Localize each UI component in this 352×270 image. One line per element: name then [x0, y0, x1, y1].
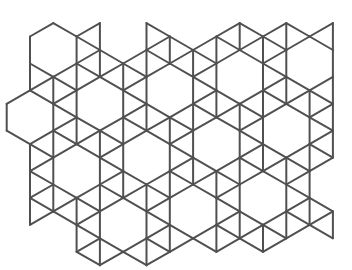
- tiling-edge: [30, 131, 53, 144]
- tiling-edge: [240, 90, 263, 104]
- tiling-edge: [30, 23, 53, 36]
- tiling-edge: [147, 198, 170, 212]
- tiling-edge: [193, 64, 216, 77]
- tiling-edge: [100, 158, 123, 172]
- tiling-edge: [147, 185, 170, 198]
- tiling-edge: [193, 50, 216, 64]
- tiling-edge: [147, 50, 170, 64]
- tiling-edge: [263, 171, 286, 184]
- tiling-edge: [53, 144, 76, 158]
- tiling-svg: [0, 0, 352, 270]
- tiling-edge: [193, 90, 216, 104]
- tiling-edge: [170, 117, 193, 130]
- tiling-edge: [263, 144, 286, 158]
- tiling-edge: [170, 238, 193, 252]
- tiling-edge: [123, 104, 146, 118]
- tiling-edge: [170, 104, 193, 118]
- tiling-edge: [216, 117, 239, 130]
- tiling-edge: [123, 198, 146, 212]
- tiling-edge: [310, 198, 333, 212]
- tiling-edge: [240, 117, 263, 130]
- tiling-edge: [286, 144, 309, 158]
- tiling-edge: [263, 23, 286, 36]
- tiling-edge: [77, 225, 100, 239]
- tiling-edge: [310, 23, 333, 36]
- tiling-edge: [100, 238, 123, 252]
- tiling-edge: [100, 252, 123, 265]
- tiling-edge: [30, 64, 53, 77]
- tiling-edge: [123, 90, 146, 104]
- tiling-edge: [193, 185, 216, 198]
- tiling-edge: [147, 211, 170, 224]
- tiling-edge: [53, 23, 76, 36]
- tiling-edge: [240, 171, 263, 184]
- tiling-edge: [170, 37, 193, 51]
- tiling-edge: [77, 23, 100, 36]
- tiling-edge: [123, 171, 146, 184]
- tiling-edge: [240, 37, 263, 51]
- tiling-edge: [216, 198, 239, 212]
- tiling-edge: [286, 104, 309, 118]
- tiling-edge: [30, 144, 53, 158]
- tiling-edge: [240, 144, 263, 158]
- tiling-edge: [147, 225, 170, 239]
- tiling-edge: [240, 225, 263, 239]
- tiling-edge: [100, 64, 123, 77]
- tiling-edge: [30, 198, 53, 212]
- tiling-edge: [53, 64, 76, 77]
- tiling-edge: [193, 77, 216, 90]
- tiling-edge: [77, 77, 100, 90]
- tiling-edge: [170, 171, 193, 184]
- tiling-edge: [216, 104, 239, 118]
- tiling-edge: [286, 77, 309, 90]
- tiling-edge: [216, 37, 239, 51]
- tiling-edge: [286, 198, 309, 212]
- tiling-edge: [123, 117, 146, 130]
- tiling-edge: [263, 158, 286, 172]
- tiling-edge: [53, 104, 76, 118]
- tiling-edge: [77, 64, 100, 77]
- tiling-edge: [100, 131, 123, 144]
- tiling-edge: [30, 158, 53, 172]
- tiling-edge: [216, 185, 239, 198]
- tiling-edge: [310, 225, 333, 239]
- tiling-edge: [30, 90, 53, 104]
- tiling-edge: [30, 77, 53, 90]
- tiling-edge: [216, 158, 239, 172]
- tiling-edge: [53, 211, 76, 224]
- tiling-edge: [147, 64, 170, 77]
- tiling-edge: [123, 252, 146, 265]
- tiling-edge: [170, 131, 193, 144]
- tiling-edge: [193, 225, 216, 239]
- tiling-edge: [310, 211, 333, 224]
- tiling-edge: [263, 64, 286, 77]
- tiling-edge: [263, 225, 286, 239]
- tiling-edge: [147, 37, 170, 51]
- tiling-edge: [53, 185, 76, 198]
- tiling-edge: [123, 238, 146, 252]
- tiling-edge: [216, 23, 239, 36]
- tiling-edge: [147, 238, 170, 252]
- tiling-edge: [216, 238, 239, 252]
- tiling-edge: [100, 50, 123, 64]
- tiling-edge: [286, 23, 309, 36]
- tiling-figure: [0, 0, 352, 270]
- tiling-edge: [286, 185, 309, 198]
- tiling-edge: [193, 104, 216, 118]
- tiling-edge: [170, 185, 193, 198]
- tiling-edge: [216, 211, 239, 224]
- tiling-edge: [263, 104, 286, 118]
- tiling-edge: [77, 198, 100, 212]
- tiling-edge: [310, 37, 333, 51]
- tiling-edge: [147, 171, 170, 184]
- tiling-edge: [193, 238, 216, 252]
- tiling-edge: [147, 104, 170, 118]
- tiling-edge: [263, 238, 286, 252]
- tiling-edge: [263, 50, 286, 64]
- tiling-edge: [193, 171, 216, 184]
- tiling-edge: [240, 131, 263, 144]
- tiling-edge: [170, 225, 193, 239]
- tiling-edge: [193, 158, 216, 172]
- tiling-edge: [77, 211, 100, 224]
- tiling-edge: [170, 64, 193, 77]
